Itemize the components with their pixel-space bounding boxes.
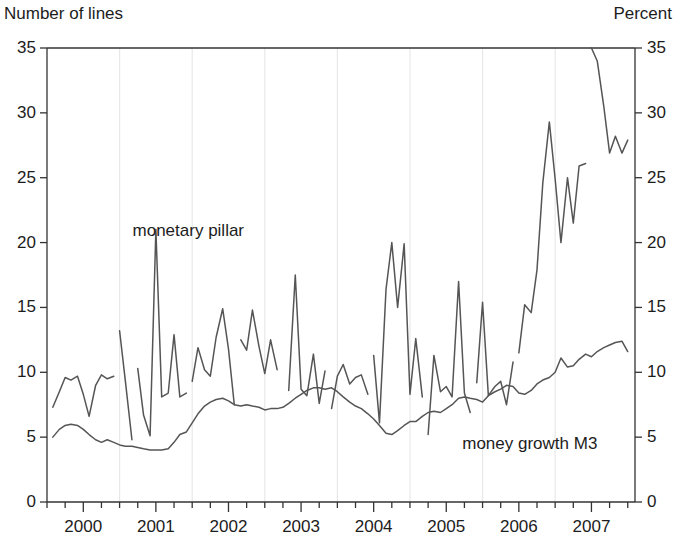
x-tick-label-2005: 2005 xyxy=(411,518,481,535)
y-tick-label-right-15: 15 xyxy=(647,298,676,315)
y-tick-label-left-5: 5 xyxy=(2,428,36,445)
y-tick-label-right-25: 25 xyxy=(647,169,676,186)
y-tick-label-right-10: 10 xyxy=(647,363,676,380)
y-tick-label-right-5: 5 xyxy=(647,428,676,445)
y-tick-label-left-0: 0 xyxy=(2,493,36,510)
x-tick-label-2002: 2002 xyxy=(193,518,263,535)
x-tick-label-2003: 2003 xyxy=(266,518,336,535)
x-tick-label-2004: 2004 xyxy=(339,518,409,535)
y-tick-label-left-20: 20 xyxy=(2,234,36,251)
chart-figure: Number of lines Percent 0510152025303505… xyxy=(0,0,676,542)
x-tick-label-2007: 2007 xyxy=(556,518,626,535)
y-tick-label-left-30: 30 xyxy=(2,104,36,121)
y-tick-label-right-30: 30 xyxy=(647,104,676,121)
series-annotation-1: money growth M3 xyxy=(462,435,597,452)
y-tick-label-left-35: 35 xyxy=(2,39,36,56)
y-tick-label-right-0: 0 xyxy=(647,493,676,510)
y-tick-label-left-10: 10 xyxy=(2,363,36,380)
series-annotation-0: monetary pillar xyxy=(133,222,245,239)
x-tick-label-2000: 2000 xyxy=(48,518,118,535)
y-tick-label-left-25: 25 xyxy=(2,169,36,186)
y-tick-label-right-20: 20 xyxy=(647,234,676,251)
x-tick-label-2006: 2006 xyxy=(484,518,554,535)
data-series-layer xyxy=(53,48,628,450)
y-tick-label-right-35: 35 xyxy=(647,39,676,56)
plot-area xyxy=(0,0,676,542)
y-tick-label-left-15: 15 xyxy=(2,298,36,315)
x-tick-label-2001: 2001 xyxy=(121,518,191,535)
